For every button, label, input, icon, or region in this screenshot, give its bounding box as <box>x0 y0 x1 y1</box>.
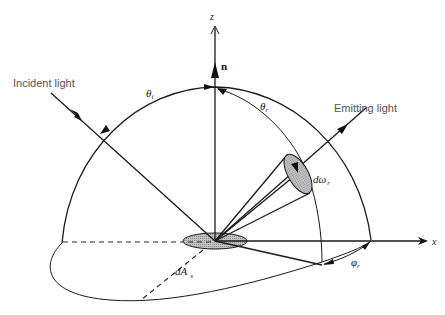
theta-r-label: θr <box>260 100 268 114</box>
z-axis-label: z <box>209 11 214 22</box>
d-omega-r-label: dωr <box>313 173 330 187</box>
cone-ray-2 <box>215 193 310 241</box>
solid-angle-patch <box>278 150 317 198</box>
phi-r-arrow-right-icon <box>362 242 370 250</box>
brdf-diagram: Incident light Emitting light z x n θi θ… <box>0 0 445 315</box>
hemisphere-base-rim-right <box>322 241 371 262</box>
incident-light-label: Incident light <box>13 77 75 89</box>
negative-y-axis <box>141 250 203 300</box>
theta-i-top-arrow-icon <box>204 84 214 90</box>
emitting-light-label: Emitting light <box>334 102 397 114</box>
phi-r-label: φr <box>351 256 360 270</box>
normal-label: n <box>221 60 227 72</box>
theta-i-arrow-icon <box>100 125 110 134</box>
incident-arrow-icon <box>70 109 82 121</box>
x-axis-label: x <box>431 236 437 247</box>
d-a-s-label: dAs <box>175 265 193 280</box>
cone-ray-1 <box>215 155 287 241</box>
hemisphere-arc <box>62 87 371 243</box>
theta-i-label: θi <box>146 87 153 101</box>
incident-ray <box>51 93 215 241</box>
normal-arrow-icon <box>211 62 219 78</box>
projection-line <box>215 241 322 265</box>
